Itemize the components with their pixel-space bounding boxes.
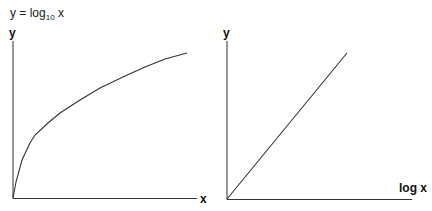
log-curve-chart: y x: [9, 26, 207, 206]
linear-log-chart: y log x: [223, 26, 427, 200]
log-curve: [13, 53, 187, 198]
y-axis-label: y: [9, 26, 16, 40]
graphs: y x y log x: [0, 0, 432, 211]
x-axis-label: x: [200, 192, 207, 206]
straight-line: [227, 53, 347, 199]
x-axis-label: log x: [399, 181, 427, 195]
y-axis-label: y: [223, 26, 230, 40]
